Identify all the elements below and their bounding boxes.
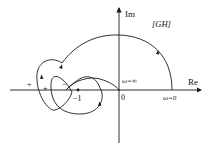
plus-sign-outer: + <box>27 80 32 89</box>
im-axis-label: Im <box>125 9 135 19</box>
nyquist-diagram: Im Re [GH] 0 −1 ω=0 ω=∞ + + − <box>0 0 214 157</box>
origin-point <box>118 89 120 91</box>
plane-label: [GH] <box>152 19 171 29</box>
direction-arrow-icon <box>40 75 44 80</box>
omega-infinity-label: ω=∞ <box>122 77 137 85</box>
direction-arrow-icon <box>59 65 63 70</box>
minus-sign-crossing: − <box>62 80 67 89</box>
omega-zero-label: ω=0 <box>163 94 177 102</box>
re-axis-label: Re <box>188 77 198 87</box>
nyquist-curve <box>37 35 172 114</box>
critical-point <box>77 89 80 92</box>
minus-one-label: −1 <box>73 94 82 103</box>
origin-label: 0 <box>121 93 125 102</box>
plus-sign-inner: + <box>43 84 48 93</box>
